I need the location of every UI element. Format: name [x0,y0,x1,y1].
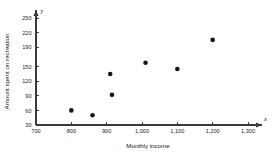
y-tick-label: 150 [22,64,31,70]
tick-labels-group: 7008009001,0001,1001,2001,30030609012015… [22,15,255,134]
x-tick-label: 1,200 [206,128,220,134]
x-tick-label: 1,100 [170,128,184,134]
x-axis-title: Monthly income [126,142,170,149]
data-point [143,60,148,65]
scatter-plot-figure: 7008009001,0001,1001,2001,30030609012015… [0,0,274,154]
y-tick-label: 190 [22,44,31,50]
y-tick-label: 60 [25,108,31,114]
x-axis-arrow-icon [256,122,262,127]
data-point [175,67,180,72]
y-tick-label: 120 [22,78,31,84]
ticks-group [36,18,248,125]
data-point [110,93,115,98]
x-tick-label: 800 [67,128,76,134]
data-point [69,108,74,113]
data-point [108,72,113,77]
data-point [210,38,215,43]
y-axis-variable-symbol: y [40,7,44,14]
y-tick-label: 250 [22,15,31,21]
axes-group [33,10,262,128]
plot-canvas: 7008009001,0001,1001,2001,30030609012015… [0,0,274,154]
data-point [90,113,95,118]
x-tick-label: 1,000 [135,128,149,134]
y-axis-arrow-icon [33,10,38,16]
x-tick-label: 700 [31,128,40,134]
x-axis-variable-symbol: x [263,115,267,122]
data-points-group [69,38,215,118]
x-tick-label: 1,300 [241,128,255,134]
y-axis-title: Amount spent on recreation [3,33,10,110]
x-tick-label: 900 [102,128,111,134]
y-tick-label: 30 [25,122,31,128]
y-tick-label: 90 [25,93,31,99]
y-tick-label: 220 [22,30,31,36]
